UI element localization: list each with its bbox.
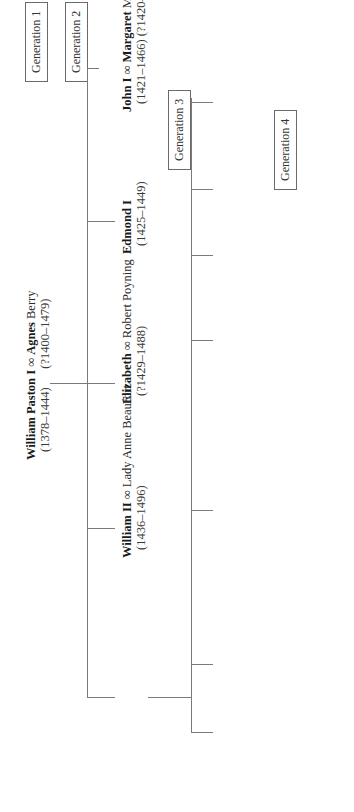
- generation-3-label: Generation 3: [168, 90, 191, 170]
- john-i-node: John I ∞ Margaret Mauthy (1421–1466) (?1…: [120, 0, 148, 112]
- spouse-name: Lady Anne Beaufort: [120, 385, 134, 487]
- person-name: Edmond I: [120, 200, 134, 254]
- connector: [191, 189, 213, 190]
- connector: [87, 221, 115, 222]
- spouse-surname: Berry: [24, 291, 38, 323]
- family-tree-diagram: Generation 1 Generation 2 Generation 3 G…: [0, 0, 354, 812]
- person-name: William II: [120, 502, 134, 558]
- person-name: John I: [120, 78, 134, 112]
- connector: [191, 102, 213, 103]
- marriage-symbol: ∞: [120, 341, 134, 350]
- connector: [87, 383, 115, 384]
- connector: [191, 732, 213, 733]
- spouse-name: Margaret: [120, 11, 134, 62]
- connector: [87, 528, 115, 529]
- spouse-dates: (?1400–1479): [38, 299, 52, 369]
- person-name: William Paston I: [24, 370, 38, 460]
- connector: [191, 510, 213, 511]
- connector: [191, 664, 213, 665]
- gen3-trunk: [191, 98, 192, 733]
- person-dates: (1436–1496): [134, 385, 148, 558]
- marriage-symbol: ∞: [24, 358, 38, 367]
- marriage-symbol: ∞: [120, 490, 134, 499]
- connector: [50, 383, 87, 384]
- person-dates: (1378–1444): [38, 387, 52, 452]
- person-dates: (1421–1466): [134, 39, 148, 104]
- elizabeth-node: Elizabeth ∞ Robert Poyning (?1429–1488): [120, 259, 148, 404]
- connector: [191, 255, 213, 256]
- edmond-i-node: Edmond I (1425–1449): [120, 181, 148, 254]
- connector: [191, 340, 213, 341]
- person-dates: (?1429–1488): [134, 259, 148, 404]
- william-paston-i-node: William Paston I ∞ Agnes Berry (1378–144…: [24, 291, 52, 460]
- marriage-symbol: ∞: [120, 66, 134, 75]
- spouse-name: Agnes: [24, 322, 38, 355]
- generation-1-label: Generation 1: [25, 2, 48, 82]
- connector: [87, 697, 115, 698]
- generation-4-label: Generation 4: [274, 110, 297, 190]
- spouse-name: Robert Poyning: [120, 259, 134, 338]
- spouse-surname: Mauthy: [120, 0, 134, 11]
- william-ii-node: William II ∞ Lady Anne Beaufort (1436–14…: [120, 385, 148, 558]
- spouse-dates: (?1420–1484): [134, 0, 148, 36]
- connector: [148, 697, 191, 698]
- generation-2-label: Generation 2: [65, 2, 88, 82]
- connector: [87, 68, 99, 69]
- person-dates: (1425–1449): [134, 181, 148, 254]
